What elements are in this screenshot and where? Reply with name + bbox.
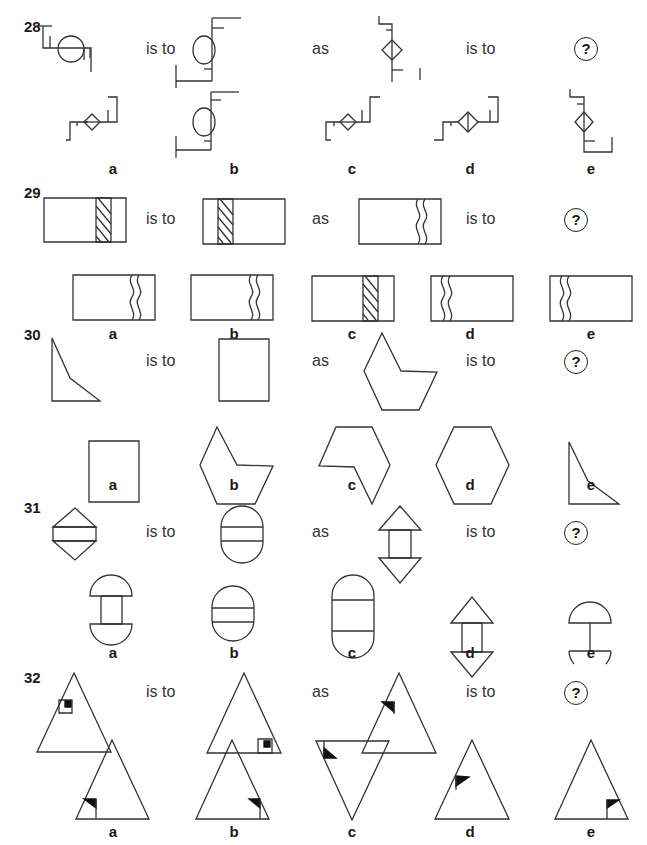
is-to-text: is to	[146, 683, 175, 701]
as-text: as	[312, 683, 329, 701]
option-b-label[interactable]: b	[224, 823, 244, 840]
unknown-answer-badge: ?	[564, 681, 588, 705]
option-d-label[interactable]: d	[460, 823, 480, 840]
option-e-figure[interactable]	[0, 0, 1, 1]
question-number: 32	[24, 669, 41, 686]
option-a-label[interactable]: a	[103, 823, 123, 840]
option-c-label[interactable]: c	[342, 823, 362, 840]
question-32: 32 is to as is to ? a b c d	[0, 0, 647, 845]
option-e-label[interactable]: e	[581, 823, 601, 840]
is-to-text: is to	[466, 683, 495, 701]
